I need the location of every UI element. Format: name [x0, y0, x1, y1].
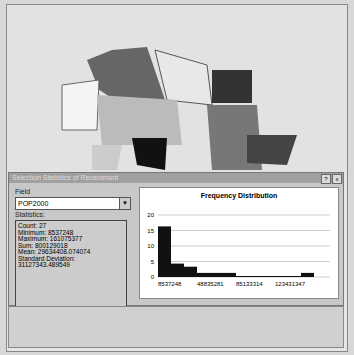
dialog-title-text: Selection Statistics of Recentmont: [12, 174, 118, 181]
statistics-label: Statistics:: [15, 211, 45, 218]
svg-text:85133314: 85133314: [236, 281, 263, 287]
svg-text:15: 15: [147, 228, 154, 234]
dialog-title: Selection Statistics of Recentmont ? x: [9, 173, 343, 183]
svg-text:10: 10: [147, 243, 154, 249]
svg-text:0: 0: [151, 274, 155, 280]
stat-stddev: Standard Deviation: 31127343.489549: [18, 256, 124, 269]
svg-text:48835281: 48835281: [197, 281, 224, 287]
africa-map: [7, 5, 347, 173]
field-value: POP2000: [18, 200, 48, 207]
map-view[interactable]: [7, 5, 347, 173]
chevron-down-icon[interactable]: ▼: [119, 198, 130, 209]
statistics-box[interactable]: Count: 27 Minimum: 8537248 Maximum: 1610…: [15, 220, 127, 308]
svg-text:5: 5: [151, 259, 155, 265]
close-button[interactable]: x: [332, 174, 342, 184]
svg-text:20: 20: [147, 212, 154, 218]
svg-text:123431347: 123431347: [275, 281, 306, 287]
field-select[interactable]: POP2000▼: [15, 197, 131, 210]
bottom-panel: [8, 306, 344, 348]
chart-title: Frequency Distribution: [140, 192, 338, 199]
field-label: Field: [15, 188, 30, 195]
help-button[interactable]: ?: [321, 174, 331, 184]
svg-text:8537248: 8537248: [158, 281, 182, 287]
chart-plot: 0510152085372484883528185133314123431347: [140, 199, 338, 294]
statistics-dialog: Selection Statistics of Recentmont ? x F…: [8, 172, 344, 306]
frequency-chart: Frequency Distribution 05101520853724848…: [139, 187, 339, 299]
